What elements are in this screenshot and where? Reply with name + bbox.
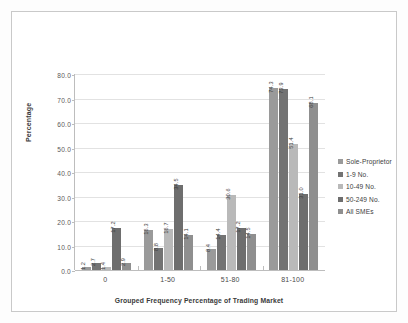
y-axis-title: Percentage: [25, 103, 32, 142]
bar-slot: 74.3: [269, 88, 278, 270]
bar-value-label: 16.3: [143, 223, 149, 234]
bar-slot: 14.5: [247, 234, 256, 270]
bar-value-label: 34.5: [173, 179, 179, 190]
legend-item[interactable]: 10-49 No.: [338, 183, 392, 190]
bar-value-label: 51.4: [288, 137, 294, 148]
bar-value-label: 1.4: [100, 262, 106, 270]
bar-value-label: 31.0: [298, 187, 304, 198]
y-axis-tick-label: 10.0: [57, 243, 71, 250]
bar-slot: 1.4: [102, 267, 111, 270]
plot-area: 0.010.020.030.040.050.060.070.080.0 1.22…: [74, 74, 324, 270]
legend-swatch-icon: [338, 209, 343, 214]
bar[interactable]: [154, 248, 163, 270]
bar[interactable]: [289, 144, 298, 270]
bar-value-label: 68.1: [308, 97, 314, 108]
legend-item[interactable]: Sole-Proprietor: [338, 158, 392, 165]
legend-item[interactable]: 50-249 No.: [338, 196, 392, 203]
bar-slot: 51.4: [289, 144, 298, 270]
bar-slot: 16.7: [164, 229, 173, 270]
bar-slot: 34.5: [174, 185, 183, 270]
legend-swatch-icon: [338, 159, 343, 164]
bar-value-label: 16.7: [163, 222, 169, 233]
legend-swatch-icon: [338, 172, 343, 177]
legend: Sole-Proprietor1-9 No.10-49 No.50-249 No…: [338, 158, 392, 221]
bar-value-label: 73.9: [278, 82, 284, 93]
legend-swatch-icon: [338, 184, 343, 189]
legend-label: All SMEs: [346, 208, 374, 215]
bar-group: 1.22.71.417.22.9: [75, 74, 138, 270]
bar-group: 74.373.951.431.068.1: [263, 74, 326, 270]
bar-value-label: 14.5: [245, 228, 251, 239]
gridline: 0.0: [75, 270, 325, 271]
bar-value-label: 14.4: [215, 228, 221, 239]
y-axis-tick-label: 80.0: [57, 72, 71, 79]
bar-value-label: 8.8: [153, 243, 159, 251]
bar[interactable]: [164, 229, 173, 270]
legend-swatch-icon: [338, 197, 343, 202]
bar-value-label: 17.2: [235, 221, 241, 232]
bar[interactable]: [279, 89, 288, 270]
y-axis-tick-label: 30.0: [57, 194, 71, 201]
y-axis-tick-label: 40.0: [57, 170, 71, 177]
legend-label: Sole-Proprietor: [346, 158, 392, 165]
bar-group: 8.414.430.617.214.5: [200, 74, 263, 270]
bar-slot: 14.4: [217, 235, 226, 270]
x-axis-tick-label: 0: [74, 276, 137, 283]
bar[interactable]: [247, 234, 256, 270]
bar-value-label: 30.6: [225, 188, 231, 199]
x-axis-tick-label: 1-50: [137, 276, 200, 283]
legend-item[interactable]: 1-9 No.: [338, 171, 392, 178]
bar-value-label: 8.4: [205, 244, 211, 252]
y-axis-tick-label: 70.0: [57, 96, 71, 103]
y-axis-tick-label: 20.0: [57, 219, 71, 226]
y-axis-tick-label: 50.0: [57, 145, 71, 152]
x-axis-tick-label: 81-100: [262, 276, 325, 283]
bar-value-label: 74.3: [268, 81, 274, 92]
bar[interactable]: [309, 103, 318, 270]
bar-value-label: 17.2: [110, 221, 116, 232]
bar[interactable]: [184, 235, 193, 270]
bar-value-label: 2.7: [90, 258, 96, 266]
bar-slot: 2.9: [122, 263, 131, 270]
x-axis-title: Grouped Frequency Percentage of Trading …: [74, 297, 324, 304]
bar[interactable]: [269, 88, 278, 270]
legend-label: 50-249 No.: [346, 196, 380, 203]
bar-groups: 1.22.71.417.22.916.38.816.734.514.18.414…: [75, 74, 325, 270]
bar-slot: 68.1: [309, 103, 318, 270]
y-axis-tick-label: 0.0: [61, 268, 71, 275]
bar[interactable]: [174, 185, 183, 270]
chart-frame: Percentage 0.010.020.030.040.050.060.070…: [11, 11, 397, 312]
bar-slot: 1.2: [82, 267, 91, 270]
x-axis-tick-label: 51-80: [199, 276, 262, 283]
bar[interactable]: [217, 235, 226, 270]
bar[interactable]: [207, 249, 216, 270]
bar-value-label: 2.9: [120, 258, 126, 266]
x-axis-tick-labels: 01-5051-8081-100: [74, 276, 324, 283]
legend-label: 10-49 No.: [346, 183, 376, 190]
bar-value-label: 1.2: [80, 262, 86, 270]
legend-label: 1-9 No.: [346, 171, 368, 178]
bar-slot: 73.9: [279, 89, 288, 270]
legend-item[interactable]: All SMEs: [338, 208, 392, 215]
y-axis-tick-label: 60.0: [57, 121, 71, 128]
bar-slot: 8.4: [207, 249, 216, 270]
chart-screenshot: Percentage 0.010.020.030.040.050.060.070…: [0, 0, 408, 323]
bar-slot: 8.8: [154, 248, 163, 270]
bar-slot: 14.1: [184, 235, 193, 270]
bar-group: 16.38.816.734.514.1: [138, 74, 201, 270]
y-axis-tick-mark: [72, 271, 75, 272]
bar-slot: 31.0: [299, 194, 308, 270]
bar[interactable]: [299, 194, 308, 270]
bar-value-label: 14.1: [183, 229, 189, 240]
